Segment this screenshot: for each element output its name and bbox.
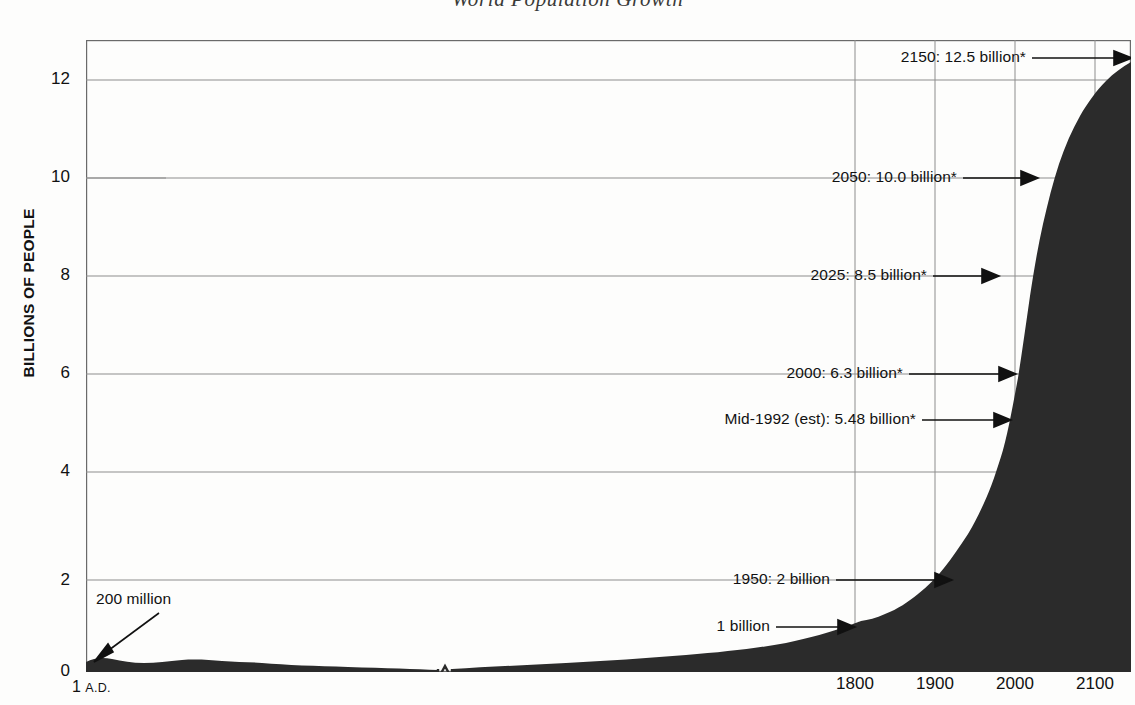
annotation-arrow-2150 — [1032, 51, 1131, 65]
annotation-label-2025: 2025: 8.5 billion* — [600, 266, 927, 284]
chart-title: World Population Growth — [0, 0, 1135, 12]
x-origin-era: A.D. — [85, 681, 111, 695]
annotation-label-2150: 2150: 12.5 billion* — [700, 48, 1026, 66]
annotation-label-2050: 2050: 10.0 billion* — [620, 168, 957, 186]
x-tick-label: 1800 — [815, 674, 895, 694]
y-tick-label: 0 — [26, 661, 70, 681]
annotation-arrow-200-million — [94, 613, 159, 662]
x-origin-label: 1 A.D. — [72, 678, 111, 696]
annotation-label-1-billion: 1 billion — [500, 617, 770, 635]
horizontal-gridlines — [86, 80, 1131, 580]
annotation-arrow-2025 — [933, 269, 999, 283]
x-tick-label: 1900 — [895, 674, 975, 694]
x-tick-label: 2100 — [1055, 674, 1135, 694]
annotation-label-1950: 1950: 2 billion — [500, 570, 830, 588]
annotation-label-2000: 2000: 6.3 billion* — [560, 364, 903, 382]
x-origin-year: 1 — [72, 678, 81, 695]
y-tick-label: 10 — [26, 167, 70, 187]
population-area-fill — [86, 658, 438, 672]
population-growth-figure: World Population Growth BILLIONS OF PEOP… — [0, 0, 1135, 705]
y-tick-label: 4 — [26, 461, 70, 481]
annotation-arrow-1950 — [836, 573, 952, 587]
y-tick-label: 8 — [26, 265, 70, 285]
annotation-arrow-2000 — [909, 367, 1016, 381]
y-tick-label: 12 — [26, 69, 70, 89]
annotation-label-200-million: 200 million — [96, 590, 171, 608]
x-tick-label: 2000 — [975, 674, 1055, 694]
y-tick-label: 6 — [26, 363, 70, 383]
annotation-arrow-1-billion — [776, 620, 855, 634]
y-tick-label: 2 — [26, 570, 70, 590]
annotation-label-1992: Mid-1992 (est): 5.48 billion* — [470, 410, 916, 428]
